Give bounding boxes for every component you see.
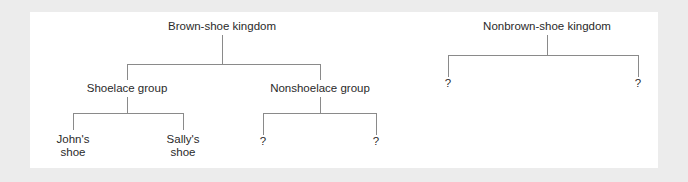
connector	[376, 113, 377, 135]
connector	[127, 97, 128, 113]
connector	[222, 35, 223, 64]
connector	[127, 64, 321, 65]
node-nonbrown-shoe-kingdom: Nonbrown-shoe kingdom	[483, 20, 611, 33]
node-johns-shoe-line2: shoe	[57, 146, 90, 159]
connector	[183, 113, 184, 130]
connector	[263, 113, 377, 114]
connector	[448, 55, 639, 56]
node-sallys-shoe-line2: shoe	[167, 146, 200, 159]
connector	[320, 97, 321, 113]
connector	[73, 113, 184, 114]
node-johns-shoe-line1: John's	[57, 133, 90, 146]
connector	[127, 64, 128, 80]
node-brown-shoe-kingdom: Brown-shoe kingdom	[168, 20, 276, 33]
connector	[73, 113, 74, 130]
node-unknown: ?	[373, 135, 379, 148]
connector	[320, 64, 321, 80]
node-unknown: ?	[635, 77, 641, 90]
node-johns-shoe: John's shoe	[57, 133, 90, 159]
connector	[638, 55, 639, 77]
connector	[263, 113, 264, 135]
node-shoelace-group: Shoelace group	[87, 82, 168, 95]
node-unknown: ?	[445, 77, 451, 90]
node-nonshoelace-group: Nonshoelace group	[270, 82, 370, 95]
connector	[448, 55, 449, 77]
node-sallys-shoe-line1: Sally's	[167, 133, 200, 146]
node-sallys-shoe: Sally's shoe	[167, 133, 200, 159]
node-unknown: ?	[260, 135, 266, 148]
connector	[547, 35, 548, 55]
